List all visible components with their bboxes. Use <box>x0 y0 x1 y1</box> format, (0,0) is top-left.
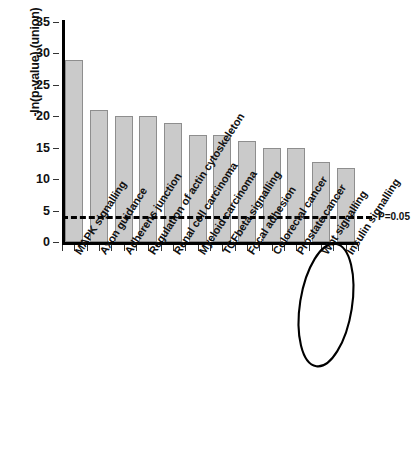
y-axis-ticks: 05101520253035 <box>0 0 60 260</box>
y-tick-label: 25 <box>36 78 50 92</box>
x-tick-mark <box>235 245 236 251</box>
bar <box>287 148 305 242</box>
x-tick-mark <box>284 245 285 251</box>
x-tick-mark <box>358 245 359 251</box>
x-tick-mark <box>185 245 186 251</box>
y-tick-label: 10 <box>36 172 50 186</box>
x-tick-mark <box>62 245 63 251</box>
bar <box>312 162 330 242</box>
bar <box>189 135 207 242</box>
x-tick-mark <box>210 245 211 251</box>
x-tick-mark <box>87 245 88 251</box>
x-tick-mark <box>173 245 174 251</box>
x-tick-mark <box>111 245 112 251</box>
x-tick-mark <box>124 245 125 251</box>
bar <box>238 141 256 242</box>
significance-threshold-label: P=0.05 <box>378 211 410 222</box>
y-tick-label: 35 <box>36 15 50 29</box>
x-tick-mark <box>222 245 223 251</box>
x-tick-mark <box>74 245 75 251</box>
y-tick-mark <box>53 53 59 54</box>
x-tick-mark <box>148 245 149 251</box>
x-tick-mark <box>247 245 248 251</box>
bar <box>115 116 133 242</box>
x-tick-mark <box>198 245 199 251</box>
bar <box>90 110 108 242</box>
x-tick-mark <box>136 245 137 251</box>
y-tick-mark <box>53 148 59 149</box>
x-tick-mark <box>333 245 334 251</box>
bar <box>65 60 83 242</box>
x-tick-mark <box>321 245 322 251</box>
y-tick-mark <box>53 85 59 86</box>
y-tick-mark <box>53 242 59 243</box>
y-tick-label: 15 <box>36 141 50 155</box>
bar <box>263 148 281 242</box>
bar <box>337 168 355 242</box>
y-tick-label: 20 <box>36 109 50 123</box>
x-tick-mark <box>99 245 100 251</box>
y-tick-mark <box>53 116 59 117</box>
y-tick-label: 30 <box>36 46 50 60</box>
bar <box>164 123 182 242</box>
x-tick-mark <box>161 245 162 251</box>
x-tick-mark <box>259 245 260 251</box>
y-tick-label: 0 <box>43 235 50 249</box>
significance-threshold-line <box>62 216 372 219</box>
y-tick-mark <box>53 179 59 180</box>
x-axis-ticks <box>62 245 358 253</box>
x-tick-mark <box>272 245 273 251</box>
bar-series <box>62 22 358 242</box>
x-tick-mark <box>296 245 297 251</box>
chart-figure: -ln(p-value) (union) 05101520253035 P=0.… <box>0 0 411 455</box>
y-tick-mark <box>53 22 59 23</box>
x-tick-mark <box>309 245 310 251</box>
bar <box>139 116 157 242</box>
y-tick-mark <box>53 211 59 212</box>
x-tick-mark <box>346 245 347 251</box>
y-tick-label: 5 <box>43 204 50 218</box>
bar <box>213 135 231 242</box>
